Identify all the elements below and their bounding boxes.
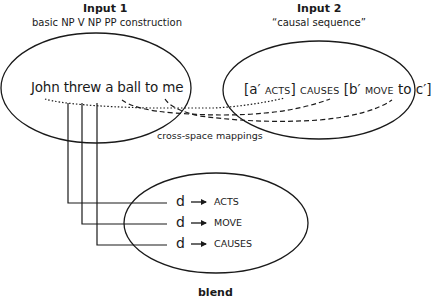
input2-subtitle: “causal sequence” bbox=[272, 18, 366, 28]
schema-b-open: [b′ bbox=[339, 81, 364, 97]
blend-role-causes: CAUSES bbox=[214, 239, 252, 249]
schema-move: MOVE bbox=[365, 85, 394, 96]
arrow-icon bbox=[191, 241, 207, 247]
arrow-icon bbox=[191, 199, 207, 205]
input1-sentence: John threw a ball to me bbox=[31, 81, 183, 95]
input1-subtitle: basic NP V NP PP construction bbox=[32, 18, 182, 28]
schema-causes: CAUSES bbox=[300, 85, 339, 96]
schema-a-open: [a′ bbox=[244, 81, 265, 97]
schema-acts: ACTS bbox=[265, 85, 291, 96]
blend-var-d: d bbox=[176, 236, 185, 250]
arrow-icon bbox=[191, 220, 207, 226]
connector-threw-move bbox=[82, 103, 167, 224]
input2-title: Input 2 bbox=[297, 3, 341, 14]
blend-role-move: MOVE bbox=[214, 218, 242, 228]
input1-title: Input 1 bbox=[83, 3, 127, 14]
schema-to-c: to c′] bbox=[394, 81, 432, 97]
blend-var-d: d bbox=[176, 215, 185, 229]
cross-space-mappings-label: cross-space mappings bbox=[157, 131, 263, 141]
input2-schema: [a′ ACTS] CAUSES [b′ MOVE to c′] bbox=[244, 81, 432, 97]
blend-role-acts: ACTS bbox=[214, 197, 239, 207]
blend-label: blend bbox=[198, 287, 233, 298]
mapping-dashed-line-me bbox=[165, 99, 392, 121]
schema-a-close: ] bbox=[291, 81, 301, 97]
blend-var-d: d bbox=[176, 194, 185, 208]
connector-john-acts bbox=[68, 103, 167, 203]
